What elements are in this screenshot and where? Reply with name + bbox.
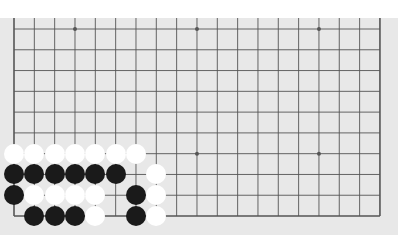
black-stone[interactable] bbox=[106, 164, 126, 184]
white-stone[interactable] bbox=[24, 144, 44, 164]
white-stone[interactable] bbox=[126, 144, 146, 164]
white-stone[interactable] bbox=[45, 144, 65, 164]
go-board[interactable] bbox=[0, 18, 398, 235]
star-point bbox=[195, 27, 199, 31]
black-stone[interactable] bbox=[45, 164, 65, 184]
black-stone[interactable] bbox=[126, 206, 146, 226]
star-point bbox=[195, 152, 199, 156]
black-stone[interactable] bbox=[45, 206, 65, 226]
white-stone[interactable] bbox=[4, 144, 24, 164]
white-stone[interactable] bbox=[106, 144, 126, 164]
star-point bbox=[317, 27, 321, 31]
black-stone[interactable] bbox=[65, 206, 85, 226]
star-point bbox=[317, 152, 321, 156]
star-point bbox=[73, 27, 77, 31]
white-stone[interactable] bbox=[65, 144, 85, 164]
white-stone[interactable] bbox=[85, 144, 105, 164]
white-stone[interactable] bbox=[45, 185, 65, 205]
